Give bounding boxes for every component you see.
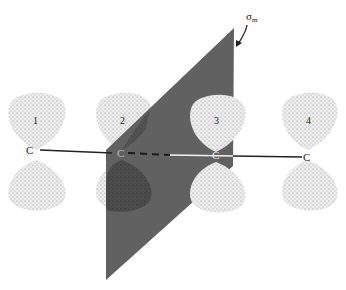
arrowhead-icon	[236, 40, 242, 47]
bond-axis-left	[40, 150, 112, 153]
diagram-canvas: 1 2 3 4 C C C C σm	[0, 0, 346, 290]
bond-axis-right	[233, 156, 302, 157]
orbital-4-label: 4	[306, 115, 311, 126]
atom-label-c4: C	[303, 151, 310, 163]
atom-label-c1: C	[26, 144, 33, 156]
orbital-3-label: 3	[214, 115, 219, 126]
atom-label-c3: C	[212, 149, 219, 161]
plane-label-subscript: m	[252, 16, 258, 24]
orbital-1-lower-lobe	[8, 160, 65, 211]
orbital-2-label: 2	[120, 115, 125, 126]
bond-axis-on-plane	[170, 155, 233, 156]
plane-label: σm	[246, 10, 258, 24]
orbital-1-label: 1	[33, 115, 38, 126]
orbital-1: 1	[8, 93, 65, 211]
plane-pointer-arrow	[238, 25, 247, 44]
orbital-4-lower-lobe	[282, 160, 337, 211]
atom-label-c2: C	[117, 147, 124, 159]
